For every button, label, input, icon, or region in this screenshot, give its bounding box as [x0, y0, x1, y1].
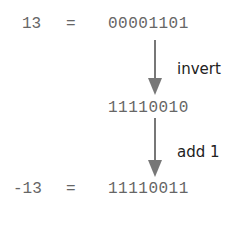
- row-2-bits: 11110010: [108, 100, 189, 116]
- invert-arrow-icon: [0, 0, 241, 235]
- step-add-one-label: add 1: [177, 145, 220, 160]
- step-invert-label: invert: [177, 62, 221, 77]
- row-3-lhs: -13: [13, 181, 42, 197]
- row-3-equals: =: [66, 181, 76, 197]
- row-3-bits: 11110011: [108, 181, 189, 197]
